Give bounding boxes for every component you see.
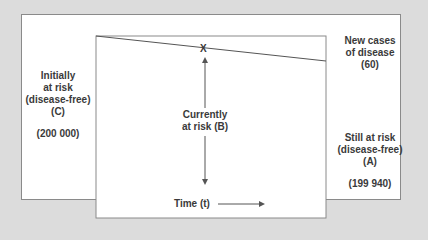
marker-x: X xyxy=(200,43,207,55)
initially-value: (200 000) xyxy=(20,128,96,140)
new-cases-line1: New cases xyxy=(330,35,410,47)
currently-line1: Currently xyxy=(165,109,245,121)
time-axis-label: Time (t) xyxy=(174,198,210,210)
still-line2: (disease-free) xyxy=(330,144,410,156)
currently-line2: at risk (B) xyxy=(165,121,245,133)
still-at-risk-label: Still at risk (disease-free) (A) (199 94… xyxy=(330,132,410,190)
new-cases-value: (60) xyxy=(330,59,410,71)
new-cases-line2: of disease xyxy=(330,47,410,59)
still-value: (199 940) xyxy=(330,178,410,190)
still-line1: Still at risk xyxy=(330,132,410,144)
initially-line4: (C) xyxy=(20,106,96,118)
initially-at-risk-label: Initially at risk (disease-free) (C) (20… xyxy=(20,70,96,140)
new-cases-label: New cases of disease (60) xyxy=(330,35,410,71)
still-line3: (A) xyxy=(330,156,410,168)
initially-line2: at risk xyxy=(20,82,96,94)
initially-line3: (disease-free) xyxy=(20,94,96,106)
currently-at-risk-label: Currently at risk (B) xyxy=(165,109,245,133)
initially-line1: Initially xyxy=(20,70,96,82)
